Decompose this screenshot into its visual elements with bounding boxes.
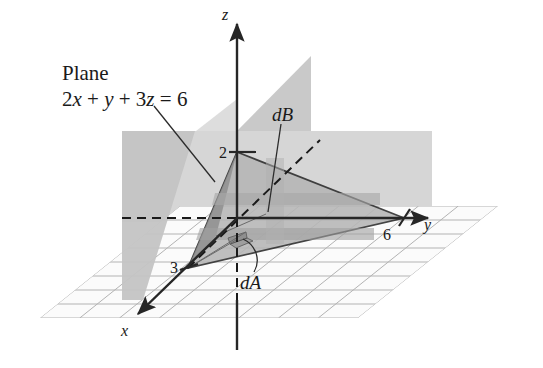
dA-label: dA <box>240 272 261 293</box>
plane-annotation-title: Plane <box>62 61 109 85</box>
x-intercept-label: 3 <box>170 259 178 277</box>
equation-var-z: z <box>146 87 154 111</box>
figure-canvas <box>0 0 543 368</box>
y-intercept-label: 6 <box>383 226 391 244</box>
equation-plus-1: + <box>87 87 99 111</box>
z-intercept-label: 2 <box>219 144 227 162</box>
equation-coef-z: 3 <box>136 87 147 111</box>
plane-integration-figure: Plane 2x + y + 3z = 6 z y x 2 3 6 dA dB <box>0 0 543 368</box>
dB-label: dB <box>272 104 293 125</box>
plane-equation: 2x + y + 3z = 6 <box>62 88 187 112</box>
equation-var-y: y <box>104 87 113 111</box>
equation-coef-x: 2 <box>62 87 73 111</box>
equation-rhs: 6 <box>177 87 188 111</box>
equation-equals: = <box>160 87 172 111</box>
plane-annotation: Plane 2x + y + 3z = 6 <box>62 62 187 111</box>
equation-plus-2: + <box>119 87 131 111</box>
upper-wedge-plane-left <box>196 99 237 131</box>
x-axis-label: x <box>121 322 128 340</box>
equation-var-x: x <box>73 87 82 111</box>
dB-column <box>266 158 284 244</box>
y-axis-label: y <box>424 216 431 234</box>
z-axis-label: z <box>222 6 228 24</box>
